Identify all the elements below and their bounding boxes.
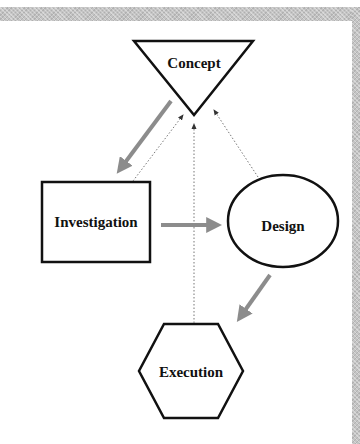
node-execution[interactable]: Execution bbox=[139, 324, 243, 418]
node-label-design: Design bbox=[261, 218, 305, 234]
node-label-concept: Concept bbox=[167, 55, 220, 71]
triangle-shape bbox=[134, 41, 253, 115]
node-investigation[interactable]: Investigation bbox=[42, 182, 150, 262]
process-diagram: Concept Investigation Design Execution bbox=[0, 0, 360, 444]
node-label-execution: Execution bbox=[159, 364, 224, 380]
arrow-concept-to-investigation bbox=[121, 101, 171, 168]
node-concept[interactable]: Concept bbox=[134, 41, 253, 115]
node-design[interactable]: Design bbox=[228, 175, 338, 267]
arrow-design-to-concept bbox=[214, 110, 258, 177]
node-label-investigation: Investigation bbox=[54, 214, 138, 230]
arrow-investigation-to-concept bbox=[133, 115, 183, 181]
arrow-design-to-execution bbox=[241, 275, 270, 316]
